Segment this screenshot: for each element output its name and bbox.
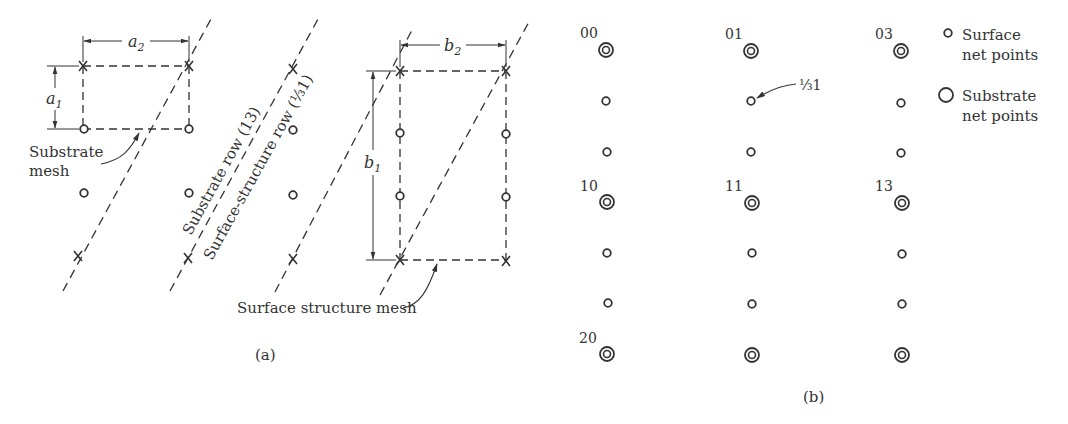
small-circle-spot — [748, 300, 756, 308]
diagonal-row-line-3 — [275, 30, 412, 292]
circle-marker — [289, 191, 297, 199]
small-circle-spot — [898, 250, 906, 258]
double-circle-spot-21 — [745, 348, 759, 362]
spot-label-00: 00 — [580, 25, 598, 41]
spot-label-03: 03 — [875, 26, 893, 42]
panel-b-caption: (b) — [803, 388, 824, 406]
legend-substrate-line1: Substrate — [962, 87, 1036, 105]
substrate-mesh-label-line1: Substrate — [29, 143, 103, 161]
label-a1: a1 — [46, 89, 63, 111]
panel-b: 00 01 03 10 11 13 20 ⅓1 Surface net poin… — [579, 25, 1038, 406]
label-b1: b1 — [364, 153, 381, 175]
small-circle-spot — [603, 249, 611, 257]
label-a2: a2 — [128, 32, 145, 54]
double-circle-spot-11 — [745, 196, 759, 210]
double-circle-spot-20 — [600, 347, 614, 361]
circle-marker — [396, 129, 404, 137]
surface-structure-figure: a2 a1 Substrate mesh b2 — [0, 0, 1068, 424]
small-circle-spot — [604, 299, 612, 307]
legend: Surface net points Substrate net points — [939, 26, 1038, 125]
double-circle-spot-00 — [599, 43, 613, 57]
circle-marker — [289, 126, 297, 134]
circle-marker — [502, 130, 510, 138]
legend-small-circle-icon — [944, 29, 952, 37]
substrate-mesh-rect — [83, 66, 189, 129]
legend-large-circle-icon — [939, 88, 953, 102]
legend-substrate-line2: net points — [962, 107, 1038, 125]
circle-marker — [80, 125, 88, 133]
label-b2: b2 — [444, 36, 461, 58]
double-circle-spot-23 — [895, 348, 909, 362]
small-circle-spot — [898, 300, 906, 308]
circle-marker — [185, 125, 193, 133]
double-circle-spot-03 — [894, 44, 908, 58]
spot-label-11: 11 — [725, 178, 743, 194]
small-circle-spot — [603, 148, 611, 156]
small-circle-spot — [747, 148, 755, 156]
cross-marker — [74, 251, 82, 261]
substrate-spots — [599, 43, 909, 362]
legend-surface-line2: net points — [962, 46, 1038, 64]
double-circle-spot-10 — [600, 195, 614, 209]
figure-canvas: a2 a1 Substrate mesh b2 — [0, 0, 1068, 424]
spot-label-10: 10 — [580, 178, 598, 194]
diagonal-row-line-4 — [380, 20, 530, 295]
circle-marker — [502, 193, 510, 201]
annotation-arrow — [757, 84, 796, 98]
small-circle-spot — [897, 99, 905, 107]
cross-marker — [289, 254, 297, 264]
circle-marker — [80, 189, 88, 197]
diagonal-row-line-2 — [170, 19, 318, 291]
substrate-mesh-pointer-arrow — [101, 133, 139, 164]
circle-marker — [185, 189, 193, 197]
cross-marker — [184, 253, 192, 263]
spot-label-20: 20 — [579, 330, 597, 346]
small-circle-spot — [747, 97, 755, 105]
spot-label-01: 01 — [725, 26, 743, 42]
legend-surface-line1: Surface — [962, 26, 1021, 44]
circle-marker — [396, 192, 404, 200]
surface-mesh-label: Surface structure mesh — [237, 299, 417, 317]
surface-mesh-rect — [400, 71, 506, 260]
surface-spots — [602, 97, 906, 308]
annotation-label-third-one: ⅓1 — [799, 77, 822, 93]
spot-label-13: 13 — [875, 178, 893, 194]
panel-a-caption: (a) — [255, 346, 276, 364]
double-circle-spot-13 — [895, 196, 909, 210]
double-circle-spot-01 — [744, 44, 758, 58]
panel-a: a2 a1 Substrate mesh b2 — [29, 19, 530, 364]
circle-markers — [80, 125, 510, 201]
substrate-mesh-label-line2: mesh — [29, 162, 70, 180]
small-circle-spot — [602, 97, 610, 105]
small-circle-spot — [897, 149, 905, 157]
small-circle-spot — [748, 249, 756, 257]
